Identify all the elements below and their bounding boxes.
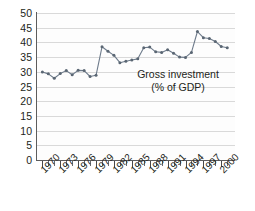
y-tick-label-50: 50 bbox=[8, 8, 32, 18]
gridline-35 bbox=[37, 57, 235, 58]
gross-investment-line-chart: 05101520253035404550 1970197319761979198… bbox=[0, 0, 255, 211]
y-tick-label-35: 35 bbox=[8, 52, 32, 62]
y-axis-line bbox=[36, 12, 37, 161]
gridline-20 bbox=[37, 101, 235, 102]
gridline-5 bbox=[37, 145, 235, 146]
y-tick-label-5: 5 bbox=[8, 140, 32, 150]
annotation-line-1: Gross investment bbox=[122, 68, 234, 81]
gridline-50 bbox=[37, 13, 235, 14]
y-tick-label-25: 25 bbox=[8, 82, 32, 92]
gridline-45 bbox=[37, 28, 235, 29]
y-tick-label-10: 10 bbox=[8, 126, 32, 136]
y-tick-label-0: 0 bbox=[8, 155, 32, 165]
y-tick-label-20: 20 bbox=[8, 96, 32, 106]
annotation-line-2: (% of GDP) bbox=[122, 81, 234, 94]
y-tick-label-15: 15 bbox=[8, 111, 32, 121]
y-tick-label-40: 40 bbox=[8, 37, 32, 47]
gridline-10 bbox=[37, 131, 235, 132]
y-tick-label-45: 45 bbox=[8, 23, 32, 33]
gridline-15 bbox=[37, 116, 235, 117]
gridline-40 bbox=[37, 42, 235, 43]
y-tick-label-30: 30 bbox=[8, 67, 32, 77]
